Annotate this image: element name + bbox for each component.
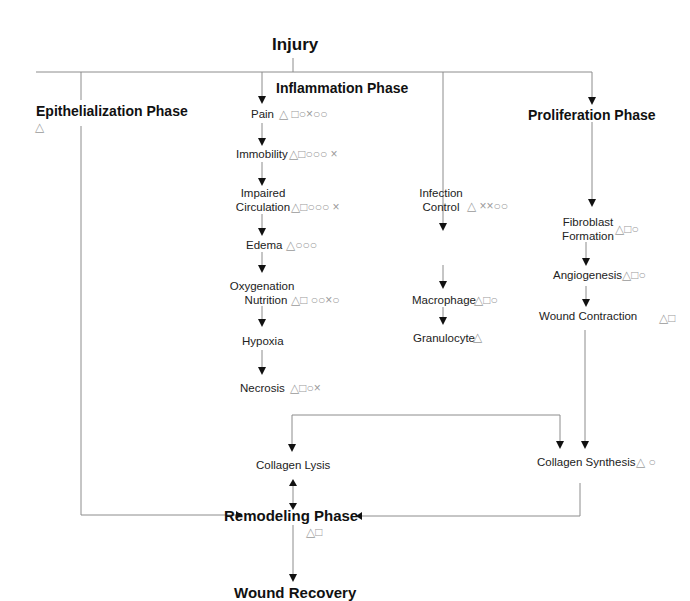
fibroblast-line2: Formation [558,229,618,243]
macrophage-symbols: △□○ [474,293,498,307]
node-infection-control: Infection Control [415,186,467,214]
impaired-circulation-symbols: △□○○○ × [291,200,340,214]
remodeling-phase-label: Remodeling Phase [224,507,358,524]
node-pain: Pain [251,107,274,121]
collagen-synthesis-symbols: △ ○ [636,455,656,469]
inflammation-phase-label: Inflammation Phase [276,80,408,96]
node-macrophage: Macrophage [412,293,476,307]
proliferation-phase-label: Proliferation Phase [528,107,656,123]
impaired-line1: Impaired [233,186,293,200]
necrosis-symbols: △□○× [290,381,321,395]
oxygenation-line1: Oxygenation [226,279,298,293]
node-wound-contraction: Wound Contraction [539,309,637,323]
node-necrosis: Necrosis [240,381,285,395]
node-edema: Edema [246,238,282,252]
infection-line1: Infection [415,186,467,200]
node-hypoxia: Hypoxia [242,334,284,348]
edema-symbols: △○○○ [286,238,317,252]
fibroblast-symbols: △□○ [615,222,639,236]
immobility-symbols: △□○○○ × [289,147,338,161]
oxygenation-line2: Nutrition [226,293,298,307]
infection-line2: Control [415,200,467,214]
node-angiogenesis: Angiogenesis [553,268,622,282]
fibroblast-line1: Fibroblast [558,215,618,229]
pain-symbols: △ □○×○○ [279,107,328,121]
remodeling-symbols: △□ [306,525,322,539]
node-fibroblast-formation: Fibroblast Formation [558,215,618,243]
epithelialization-phase-label: Epithelialization Phase [36,103,188,119]
wound-contraction-symbols: △□ [659,311,675,325]
node-granulocyte: Granulocyte [413,331,475,345]
injury-title: Injury [272,35,318,55]
oxygenation-symbols: △□ ○○×○ [291,293,340,307]
node-immobility: Immobility [236,147,288,161]
angiogenesis-symbols: △□○ [622,268,646,282]
node-collagen-lysis: Collagen Lysis [256,458,330,472]
granulocyte-symbols: △ [473,330,482,344]
node-collagen-synthesis: Collagen Synthesis [537,455,635,469]
node-impaired-circulation: Impaired Circulation [233,186,293,214]
epithelialization-symbols: △ [35,120,44,134]
infection-control-symbols: △ ××○○ [467,199,508,213]
impaired-line2: Circulation [233,200,293,214]
node-oxygenation-nutrition: Oxygenation Nutrition [226,279,298,307]
wound-recovery-label: Wound Recovery [234,584,356,601]
